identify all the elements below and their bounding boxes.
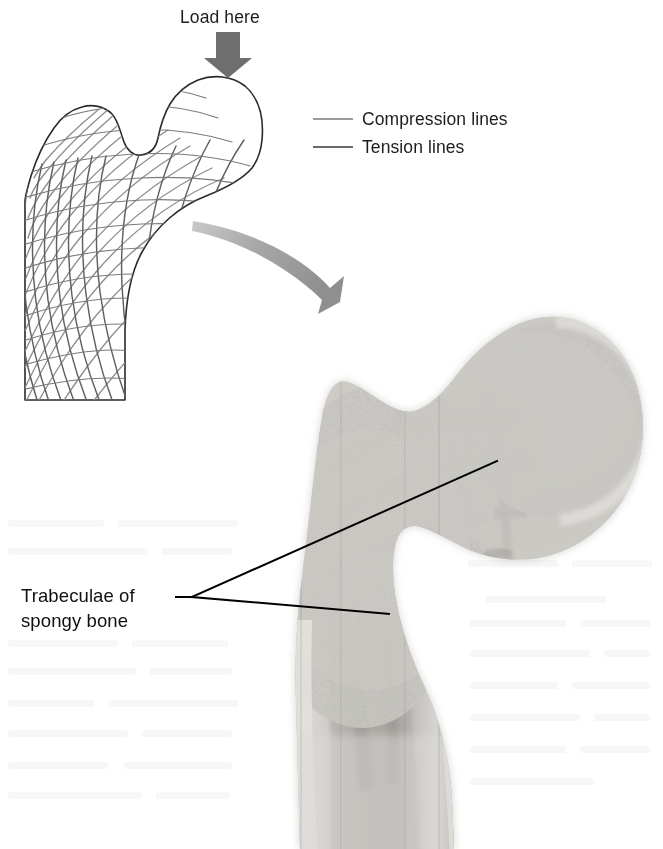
legend-item-compression: Compression lines (313, 105, 508, 133)
load-here-label: Load here (180, 7, 260, 28)
legend-label-compression: Compression lines (362, 109, 508, 130)
legend-label-tension: Tension lines (362, 137, 464, 158)
tension-line-swatch-icon (313, 146, 353, 148)
leader-line-lower (192, 597, 389, 614)
trabeculae-callout-label: Trabeculae of spongy bone (21, 583, 135, 633)
legend-item-tension: Tension lines (313, 133, 508, 161)
leader-line-upper (192, 461, 497, 597)
trabeculae-callout-line2: spongy bone (21, 608, 135, 633)
trabeculae-callout-line1: Trabeculae of (21, 583, 135, 608)
legend: Compression lines Tension lines (313, 105, 508, 161)
figure-canvas: Load here Compression lines Tension line… (0, 0, 663, 849)
compression-line-swatch-icon (313, 118, 353, 120)
